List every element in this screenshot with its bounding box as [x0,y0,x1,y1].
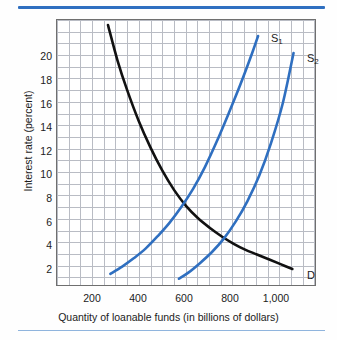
curve-label-s2: S2 [307,53,319,65]
y-axis-title: Interest rate (percent) [22,61,34,221]
top-divider-rule [18,6,325,9]
curve-label-d: D [307,270,315,281]
curve-label-s1: S1 [271,33,283,45]
bottom-divider-rule [18,330,325,331]
plot-area [56,19,316,286]
curve-label-s1-sub: 1 [278,37,282,46]
x-tick-600: 600 [175,292,193,304]
figure-canvas: 20 18 16 14 12 10 8 6 4 2 200 400 600 80… [0,0,337,340]
y-tick-4: 4 [26,240,52,250]
x-axis-title: Quantity of loanable funds (in billions … [0,311,337,323]
x-tick-200: 200 [83,292,101,304]
x-tick-400: 400 [129,292,147,304]
curve-label-s2-sub: 2 [314,57,318,66]
y-tick-20: 20 [26,51,52,61]
x-tick-1000: 1,000 [263,292,289,304]
x-tick-800: 800 [221,292,239,304]
y-tick-2: 2 [26,264,52,274]
